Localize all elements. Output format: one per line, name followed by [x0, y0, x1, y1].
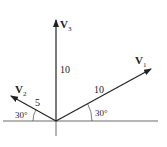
- angle-arc-v1: [88, 104, 93, 122]
- vector-diagram: V3 10 V1 10 30° V2 5 30°: [0, 0, 167, 147]
- v3-magnitude: 10: [60, 64, 70, 75]
- v2-label: V2: [15, 83, 27, 98]
- v2-magnitude: 5: [35, 97, 40, 108]
- angle-arc-v2: [33, 110, 36, 122]
- v3-label: V3: [60, 18, 72, 33]
- v1-magnitude: 10: [94, 84, 104, 95]
- v1-angle-label: 30°: [95, 108, 108, 118]
- v2-angle-label: 30°: [15, 110, 28, 120]
- v1-label: V1: [135, 54, 147, 69]
